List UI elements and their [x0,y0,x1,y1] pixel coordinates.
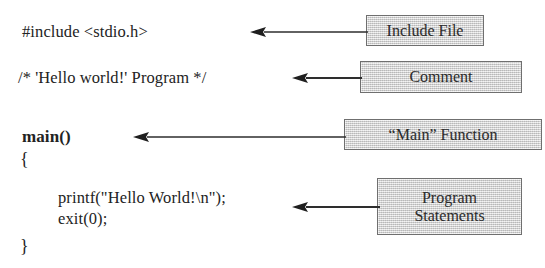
arrow-left-icon-comment [292,71,362,85]
code-line-printf: printf("Hello World!\n"); [58,190,226,207]
code-line-close-brace: } [20,237,29,255]
callout-program-statements-label-line2: Statements [414,207,484,225]
callout-comment: Comment [360,61,522,93]
code-line-main: main() [22,128,71,145]
code-line-open-brace: { [20,150,29,168]
callout-comment-label: Comment [409,68,472,86]
arrow-left-icon-include [250,25,368,39]
arrow-left-icon-program [292,200,380,214]
arrow-left-icon-main [133,130,346,144]
code-line-comment: /* 'Hello world!' Program */ [18,70,206,87]
callout-include-file-label: Include File [387,22,464,40]
callout-main-function: “Main” Function [344,119,542,150]
figure-canvas: #include <stdio.h> /* 'Hello world!' Pro… [0,0,545,268]
code-line-exit: exit(0); [58,211,107,228]
code-line-include: #include <stdio.h> [22,24,148,41]
callout-program-statements: Program Statements [377,178,522,235]
callout-include-file: Include File [366,15,484,46]
callout-program-statements-label-line1: Program [422,189,477,207]
callout-main-function-label: “Main” Function [389,126,498,144]
